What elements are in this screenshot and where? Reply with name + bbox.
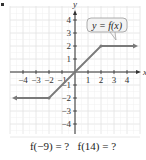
svg-text:y: y bbox=[72, 0, 77, 9]
function-graph: xy −4−3−2−112344321−1−2−3−4 y = f(x) bbox=[0, 0, 146, 140]
function-label-callout: y = f(x) bbox=[87, 18, 127, 40]
svg-text:4: 4 bbox=[125, 75, 130, 85]
svg-text:y = f(x): y = f(x) bbox=[91, 20, 123, 32]
question-f-14: f(14) = ? bbox=[77, 140, 116, 152]
question-caption: f(−9) = ? f(14) = ? bbox=[0, 140, 146, 152]
svg-text:3: 3 bbox=[112, 75, 117, 85]
svg-text:2: 2 bbox=[99, 75, 104, 85]
svg-text:x: x bbox=[142, 67, 146, 77]
question-f-neg9: f(−9) = ? bbox=[30, 140, 69, 152]
svg-text:4: 4 bbox=[67, 15, 72, 25]
svg-text:3: 3 bbox=[67, 28, 72, 38]
svg-text:1: 1 bbox=[67, 54, 72, 64]
svg-text:−2: −2 bbox=[61, 93, 71, 103]
svg-text:−2: −2 bbox=[44, 75, 54, 85]
svg-text:−4: −4 bbox=[18, 75, 28, 85]
svg-text:−3: −3 bbox=[61, 106, 71, 116]
svg-text:−3: −3 bbox=[31, 75, 41, 85]
svg-text:−4: −4 bbox=[61, 119, 71, 129]
svg-text:2: 2 bbox=[67, 41, 72, 51]
svg-text:1: 1 bbox=[86, 75, 91, 85]
